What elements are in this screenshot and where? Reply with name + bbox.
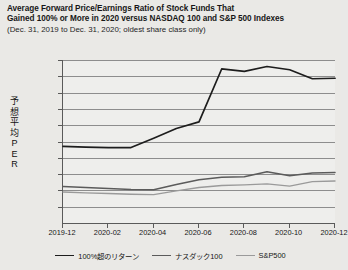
y-axis-tick-mark	[58, 190, 62, 191]
y-axis-tick-mark	[58, 174, 62, 175]
x-axis-tick-mark	[62, 224, 63, 228]
legend-color-swatch	[236, 255, 255, 256]
x-axis-tick-label: 2020-02	[94, 228, 121, 237]
y-axis-title-char: 平	[8, 117, 21, 128]
x-axis-tick-mark	[289, 224, 290, 228]
y-axis-tick-mark	[58, 76, 62, 77]
chart-legend: 100%超のリターンナスダック100S&P500	[0, 250, 341, 261]
x-axis-tick-label: 2020-06	[184, 228, 211, 237]
legend-label: ナスダック100	[175, 250, 222, 261]
y-axis-title: 予想平均PER	[8, 96, 21, 170]
y-axis-title-char: 予	[8, 96, 21, 107]
y-axis-tick-mark	[58, 142, 62, 143]
y-axis-tick-mark	[58, 60, 62, 61]
y-axis-title-char: E	[8, 149, 21, 160]
x-axis-tick-label: 2020-10	[275, 228, 302, 237]
legend-item[interactable]: 100%超のリターン	[55, 250, 139, 261]
legend-color-swatch	[55, 255, 74, 256]
x-axis-tick-label: 2020-12	[320, 228, 347, 237]
legend-label: S&P500	[259, 251, 286, 260]
x-axis-tick-mark	[198, 224, 199, 228]
chart-title-block: Average Forward Price/Earnings Ratio of …	[7, 4, 335, 36]
x-axis-tick-mark	[334, 224, 335, 228]
x-axis-tick-label: 2020-08	[230, 228, 257, 237]
y-axis-tick-mark	[58, 125, 62, 126]
y-axis-tick-mark	[58, 109, 62, 110]
plot-area	[62, 60, 335, 224]
chart-subtitle: (Dec. 31, 2019 to Dec. 31, 2020; oldest …	[7, 25, 335, 35]
y-axis-tick-mark	[58, 93, 62, 94]
y-axis-title-char: P	[8, 138, 21, 149]
y-axis-title-char: R	[8, 159, 21, 170]
legend-color-swatch	[152, 255, 171, 256]
x-axis-tick-mark	[243, 224, 244, 228]
y-axis-title-char: 均	[8, 128, 21, 139]
x-axis-tick-mark	[107, 224, 108, 228]
x-axis-tick-label: 2020-04	[139, 228, 166, 237]
legend-item[interactable]: S&P500	[236, 251, 286, 260]
data-series-layer	[63, 60, 335, 223]
chart-title-line-1: Average Forward Price/Earnings Ratio of …	[7, 4, 335, 14]
legend-item[interactable]: ナスダック100	[152, 250, 222, 261]
chart-title-line-2: Gained 100% or More in 2020 versus NASDA…	[7, 14, 335, 24]
y-axis-tick-mark	[58, 207, 62, 208]
y-axis-tick-mark	[58, 158, 62, 159]
x-axis-tick-mark	[153, 224, 154, 228]
series-line	[63, 67, 335, 148]
legend-label: 100%超のリターン	[78, 250, 139, 261]
y-axis-title-char: 想	[8, 107, 21, 118]
x-axis-tick-label: 2019-12	[48, 228, 75, 237]
